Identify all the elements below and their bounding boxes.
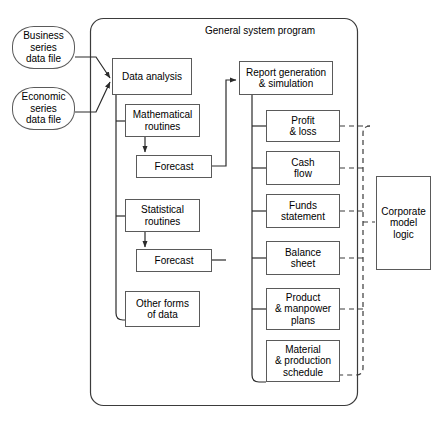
report-distribution-rail — [252, 95, 266, 382]
node-profit-loss[interactable]: Profit & loss — [266, 110, 340, 142]
node-forecast-mathematical[interactable]: Forecast — [136, 155, 212, 178]
node-funds-statement[interactable]: Funds statement — [266, 194, 340, 228]
node-economic-series-data-file[interactable]: Economic series data file — [12, 87, 75, 130]
container-title-general-system-program: General system program — [205, 25, 315, 36]
node-report-generation-simulation[interactable]: Report generation & simulation — [239, 61, 333, 95]
node-other-forms-of-data[interactable]: Other forms of data — [125, 291, 200, 327]
connector-economic-to-data-analysis — [75, 82, 110, 112]
connector-business-to-data-analysis — [75, 57, 110, 78]
system-flow-diagram: Business series data file Economic serie… — [0, 0, 446, 427]
node-data-analysis[interactable]: Data analysis — [112, 58, 192, 95]
node-forecast-statistical[interactable]: Forecast — [136, 249, 212, 272]
corporate-model-dashed-rail — [340, 126, 370, 375]
analysis-distribution-rail — [116, 95, 125, 320]
node-corporate-model-logic[interactable]: Corporate model logic — [376, 176, 431, 270]
node-cash-flow[interactable]: Cash flow — [266, 151, 340, 185]
node-product-manpower-plans[interactable]: Product & manpower plans — [266, 288, 340, 330]
node-business-series-data-file[interactable]: Business series data file — [12, 26, 75, 69]
node-statistical-routines[interactable]: Statistical routines — [125, 199, 200, 232]
node-mathematical-routines[interactable]: Mathematical routines — [125, 104, 200, 137]
node-balance-sheet[interactable]: Balance sheet — [266, 241, 340, 275]
node-material-production-schedule[interactable]: Material & production schedule — [266, 340, 340, 382]
connector-forecast-mathematical-to-report — [212, 80, 236, 166]
